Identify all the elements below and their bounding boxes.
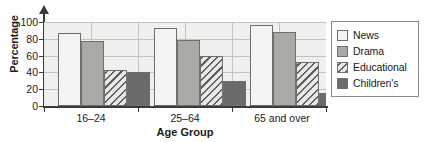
y-tick-label-60: 60 [12, 51, 38, 62]
bar-educational-25-64 [200, 56, 223, 106]
legend-item-drama: Drama [337, 43, 414, 59]
x-axis-line [43, 106, 328, 108]
legend-swatch-educational-icon [337, 62, 348, 73]
x-tick-mark-3 [326, 107, 327, 112]
x-tick-label-16-24: 16–24 [58, 112, 124, 124]
y-tick-label-80: 80 [12, 34, 38, 45]
y-tick-label-100: 100 [12, 17, 38, 28]
x-tick-label-65-and-over: 65 and over [242, 112, 322, 124]
bar-childrens-25-64 [223, 81, 246, 106]
x-tick-mark-2 [232, 107, 233, 112]
y-tick-label-0: 0 [12, 101, 38, 112]
bar-drama-65-and-over [273, 32, 296, 106]
legend-label-drama: Drama [353, 45, 384, 57]
bar-chart-figure: Percentage 100 80 60 40 20 0 [0, 0, 424, 142]
legend-swatch-drama-icon [337, 46, 348, 57]
legend-item-childrens: Children's [337, 75, 414, 91]
y-axis-tick-labels: 100 80 60 40 20 0 [10, 0, 38, 142]
bar-educational-16-24 [104, 70, 127, 106]
legend-swatch-childrens-icon [337, 78, 348, 89]
legend-label-childrens: Children's [353, 77, 398, 89]
legend-swatch-news-icon [337, 30, 348, 41]
x-tick-label-25-64: 25–64 [152, 112, 218, 124]
bar-news-16-24 [58, 33, 81, 106]
bar-childrens-16-24 [127, 72, 150, 106]
legend-item-news: News [337, 27, 414, 43]
legend-item-educational: Educational [337, 59, 414, 75]
legend-label-educational: Educational [353, 61, 407, 73]
bar-news-25-64 [154, 28, 177, 106]
bar-drama-16-24 [81, 41, 104, 106]
bar-childrens-65-and-over [319, 93, 326, 106]
bar-educational-65-and-over [296, 62, 319, 107]
legend-label-news: News [353, 29, 379, 41]
bar-drama-25-64 [177, 40, 200, 106]
x-tick-mark-1 [138, 107, 139, 112]
chart-legend: News Drama Educational Children's [331, 21, 419, 97]
plot-area [44, 22, 326, 106]
bar-news-65-and-over [250, 25, 273, 107]
x-axis-title: Age Group [44, 126, 326, 138]
x-tick-mark-0 [44, 107, 45, 112]
y-tick-label-40: 40 [12, 67, 38, 78]
y-tick-label-20: 20 [12, 84, 38, 95]
